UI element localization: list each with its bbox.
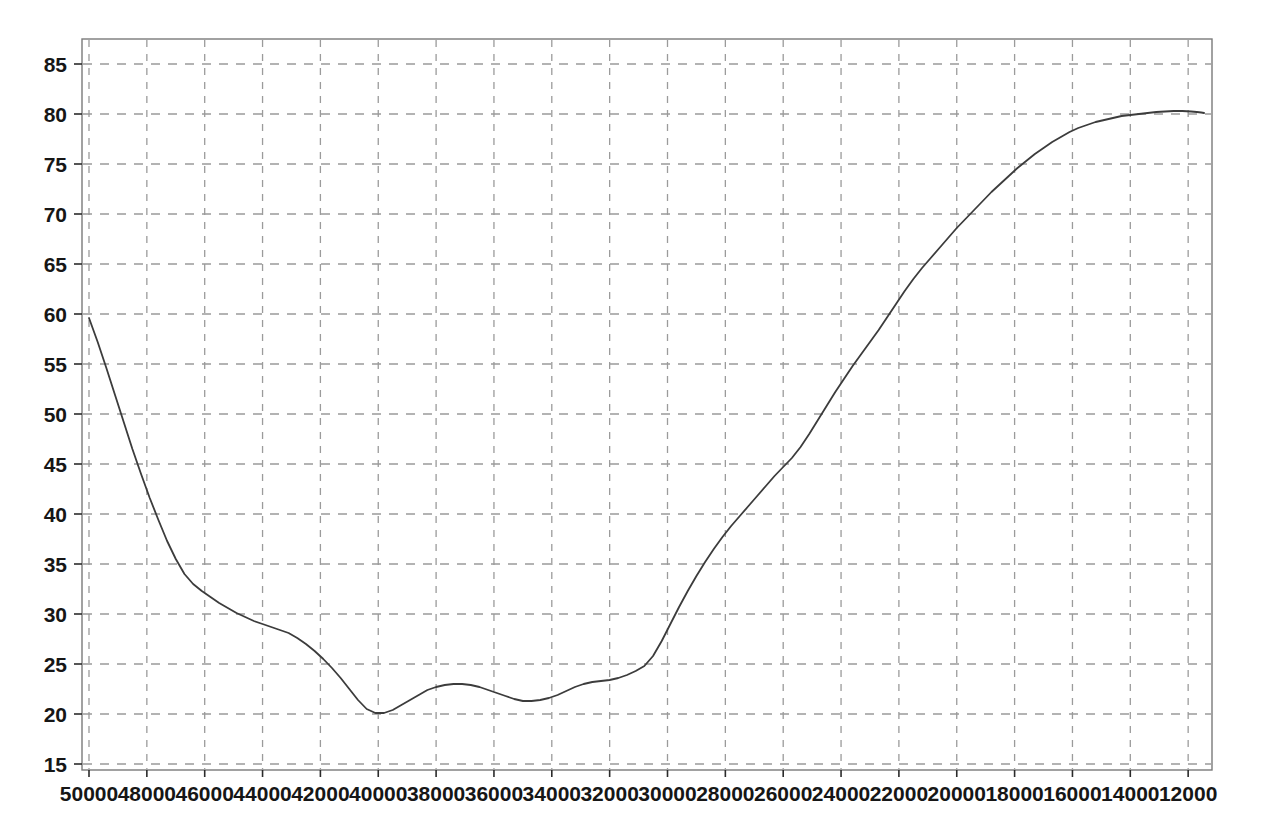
x-tick-label: 48000	[118, 782, 176, 805]
x-tick-label: 22000	[870, 782, 928, 805]
x-axis-labels: 5000048000460004400042000400003800036000…	[60, 782, 1218, 805]
y-tick-label: 85	[44, 53, 68, 76]
x-tick-label: 46000	[175, 782, 233, 805]
x-tick-label: 44000	[233, 782, 291, 805]
y-tick-label: 35	[44, 553, 68, 576]
x-tick-label: 28000	[696, 782, 754, 805]
x-tick-label: 14000	[1101, 782, 1159, 805]
x-tick-label: 20000	[928, 782, 986, 805]
x-tick-label: 38000	[407, 782, 465, 805]
x-tick-label: 34000	[523, 782, 581, 805]
x-tick-label: 32000	[580, 782, 638, 805]
y-tick-label: 45	[44, 453, 68, 476]
data-series	[89, 111, 1204, 713]
y-tick-label: 80	[44, 103, 67, 126]
x-tick-label: 40000	[349, 782, 407, 805]
y-axis-labels: 858075706560555045403530252015	[44, 53, 68, 776]
axis-ticks	[74, 64, 1188, 777]
x-tick-label: 26000	[754, 782, 812, 805]
series-line-spectrum	[89, 111, 1204, 713]
y-tick-label: 40	[44, 503, 67, 526]
y-tick-label: 30	[44, 603, 67, 626]
x-tick-label: 30000	[638, 782, 696, 805]
chart-container: 858075706560555045403530252015 500004800…	[0, 0, 1262, 831]
x-tick-label: 12000	[1159, 782, 1217, 805]
spectrum-plot: 858075706560555045403530252015 500004800…	[0, 0, 1262, 831]
x-tick-label: 24000	[812, 782, 870, 805]
y-tick-label: 25	[44, 653, 68, 676]
y-tick-label: 50	[44, 403, 67, 426]
y-tick-label: 70	[44, 203, 67, 226]
y-tick-label: 65	[44, 253, 68, 276]
y-tick-label: 75	[44, 153, 68, 176]
x-tick-label: 36000	[465, 782, 523, 805]
x-tick-label: 42000	[291, 782, 349, 805]
x-tick-label: 50000	[60, 782, 118, 805]
y-tick-label: 55	[44, 353, 68, 376]
y-tick-label: 60	[44, 303, 67, 326]
x-tick-label: 16000	[1043, 782, 1101, 805]
y-tick-label: 20	[44, 703, 67, 726]
x-tick-label: 18000	[985, 782, 1043, 805]
y-tick-label: 15	[44, 753, 68, 776]
